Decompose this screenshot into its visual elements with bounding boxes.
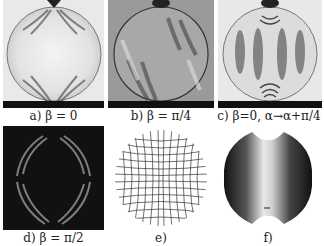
panel-a-image [3,0,104,108]
panel-b-image [108,0,214,108]
panel-e-image [112,128,210,228]
base-platen [3,101,104,108]
panel-c-image [218,0,322,108]
panel-f-image [222,130,314,226]
disk-fringe-pattern-d [3,126,104,230]
caption-f: f) [222,231,314,245]
caption-c: c) β=0, α→α+π/4 [214,109,324,123]
disk-fringe-pattern-c [218,0,322,108]
intensity-disk [222,130,314,226]
disk-fringe-pattern-a [3,0,104,108]
caption-d: d) β = π/2 [3,231,104,245]
caption-a: a) β = 0 [3,109,104,123]
panel-d-image [3,126,104,230]
caption-b: b) β = π/4 [108,109,214,123]
caption-e: e) [112,231,210,245]
isostatic-grid [112,128,210,228]
disk-fringe-pattern-b [108,0,214,108]
